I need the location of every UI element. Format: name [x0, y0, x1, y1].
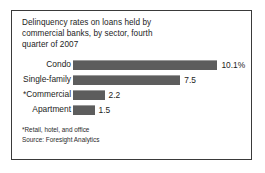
- chart-title-line-3: quarter of 2007: [22, 39, 237, 50]
- bar-track: 1.5: [73, 105, 251, 115]
- bar-category-label: Condo: [12, 58, 71, 71]
- chart-frame: Delinquency rates on loans held by comme…: [11, 10, 252, 160]
- bar-rows: Condo 10.1% Single-family 7.5 *Commercia…: [12, 58, 251, 118]
- bar-fill: [73, 90, 105, 100]
- bar-category-label: Apartment: [12, 103, 71, 116]
- chart-notes: *Retail, hotel, and office Source: Fores…: [22, 125, 232, 144]
- bar-fill: [73, 60, 217, 70]
- bar-value-label: 10.1%: [221, 59, 245, 71]
- bar-category-label: *Commercial: [12, 88, 71, 101]
- bar-track: 7.5: [73, 75, 251, 85]
- chart-title-line-1: Delinquency rates on loans held by: [22, 17, 237, 28]
- bar-track: 10.1%: [73, 60, 251, 70]
- bar-row-single-family: Single-family 7.5: [12, 73, 251, 88]
- chart-figure: Delinquency rates on loans held by comme…: [0, 0, 265, 173]
- bar-row-commercial: *Commercial 2.2: [12, 88, 251, 103]
- bar-category-label: Single-family: [12, 73, 71, 86]
- bar-row-apartment: Apartment 1.5: [12, 103, 251, 118]
- bar-value-label: 7.5: [184, 74, 196, 86]
- bar-fill: [73, 75, 180, 85]
- bar-row-condo: Condo 10.1%: [12, 58, 251, 73]
- bar-value-label: 2.2: [109, 89, 121, 101]
- chart-footnote: *Retail, hotel, and office: [22, 125, 232, 135]
- chart-title-line-2: commercial banks, by sector, fourth: [22, 28, 237, 39]
- bar-fill: [73, 105, 95, 115]
- chart-title: Delinquency rates on loans held by comme…: [22, 17, 237, 51]
- bar-value-label: 1.5: [99, 104, 111, 116]
- bar-track: 2.2: [73, 90, 251, 100]
- chart-source: Source: Foresight Analytics: [22, 135, 232, 145]
